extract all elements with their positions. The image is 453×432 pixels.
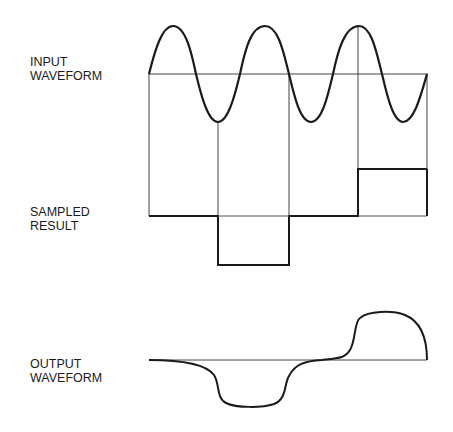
sampled-staircase [149, 169, 427, 265]
sampling-diagram [0, 0, 453, 432]
output-smoothed-wave [149, 312, 427, 407]
